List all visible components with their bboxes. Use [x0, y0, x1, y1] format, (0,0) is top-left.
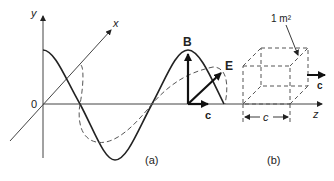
b-vector-label: B — [183, 35, 192, 49]
propagation-label: c — [317, 80, 323, 91]
panel-b: z 1 m² c c (b) — [235, 13, 325, 166]
panel-b-caption: (b) — [267, 154, 280, 166]
y-axis-label: y — [30, 7, 38, 19]
panel-a: y x 0 B E c (a) — [10, 7, 235, 166]
c-vector-label: c — [205, 109, 211, 121]
origin-label: 0 — [31, 98, 37, 110]
unit-volume-box — [243, 48, 308, 122]
area-label: 1 m² — [271, 13, 292, 24]
length-label: c — [263, 111, 269, 123]
z-axis-label: z — [312, 108, 319, 120]
x-axis-label: x — [112, 17, 119, 29]
x-axis — [10, 30, 111, 141]
e-vector-label: E — [225, 59, 233, 73]
em-wave-diagram: y x 0 B E c (a) z — [0, 0, 334, 181]
panel-a-caption: (a) — [145, 154, 158, 166]
area-pointer-arrow — [286, 25, 298, 55]
